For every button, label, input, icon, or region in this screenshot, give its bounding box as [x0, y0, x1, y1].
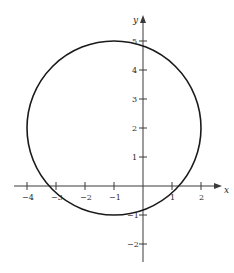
y-ticks: 5 4 3 2 1 −1 −2 — [127, 37, 147, 249]
y-axis-label: y — [132, 15, 139, 25]
x-tick-label: −1 — [109, 193, 121, 202]
y-tick-label: −2 — [127, 240, 139, 249]
x-tick-label: −4 — [22, 193, 34, 202]
y-axis: y 5 4 3 2 1 −1 −2 — [127, 15, 147, 262]
y-tick-label: 2 — [132, 124, 137, 133]
y-tick-label: 1 — [132, 153, 137, 162]
y-axis-arrow-icon — [140, 15, 146, 23]
x-tick-label: 2 — [199, 193, 204, 202]
x-axis-arrow-icon — [214, 183, 222, 189]
x-axis: x −4 −3 −2 −1 1 2 — [14, 182, 229, 202]
x-axis-label: x — [224, 185, 229, 195]
y-tick-label: 3 — [132, 95, 137, 104]
x-tick-label: −2 — [80, 193, 92, 202]
y-tick-label: 4 — [132, 66, 137, 75]
diagram-canvas: x −4 −3 −2 −1 1 2 y 5 — [0, 0, 234, 273]
